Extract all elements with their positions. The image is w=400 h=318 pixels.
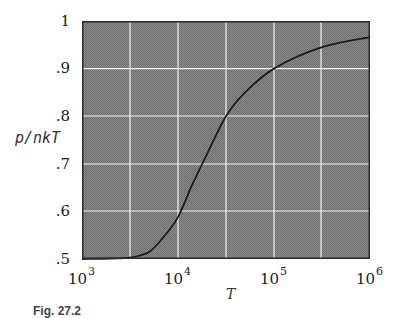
y-tick-label: .6 bbox=[30, 202, 70, 220]
y-tick-label: .7 bbox=[30, 155, 70, 173]
x-tick-label: 105 bbox=[260, 268, 287, 288]
x-tick-label: 103 bbox=[68, 268, 95, 288]
grid-lines bbox=[83, 22, 369, 258]
x-axis-label: T bbox=[226, 286, 235, 302]
y-axis-label: p/nkT bbox=[15, 129, 60, 147]
x-tick-label: 106 bbox=[356, 268, 383, 288]
x-tick-label: 104 bbox=[164, 268, 191, 288]
y-tick-label: .9 bbox=[30, 59, 70, 77]
y-tick-label: 1 bbox=[30, 12, 70, 30]
figure-caption: Fig. 27.2 bbox=[33, 304, 81, 318]
y-tick-label: .8 bbox=[30, 107, 70, 125]
y-tick-label: .5 bbox=[30, 250, 70, 268]
